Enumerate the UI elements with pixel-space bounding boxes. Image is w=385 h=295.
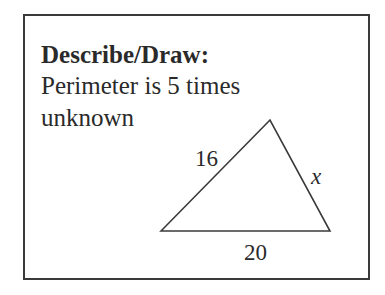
side-label-base: 20 bbox=[244, 240, 267, 266]
side-label-right: x bbox=[311, 164, 321, 190]
triangle bbox=[161, 120, 330, 231]
triangle-diagram bbox=[0, 0, 385, 295]
side-label-left: 16 bbox=[195, 146, 218, 172]
